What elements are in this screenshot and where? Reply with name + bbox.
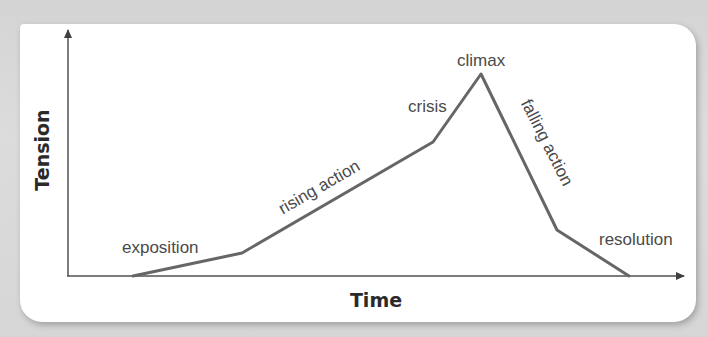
- y-axis-title: Tension: [31, 109, 53, 190]
- label-exposition: exposition: [122, 238, 199, 257]
- x-axis-title: Time: [350, 289, 402, 311]
- label-falling-action: falling action: [517, 96, 577, 189]
- label-climax: climax: [457, 51, 506, 70]
- label-crisis: crisis: [408, 97, 447, 116]
- label-resolution: resolution: [599, 230, 673, 249]
- plot-diagram: exposition rising action crisis climax f…: [0, 0, 708, 337]
